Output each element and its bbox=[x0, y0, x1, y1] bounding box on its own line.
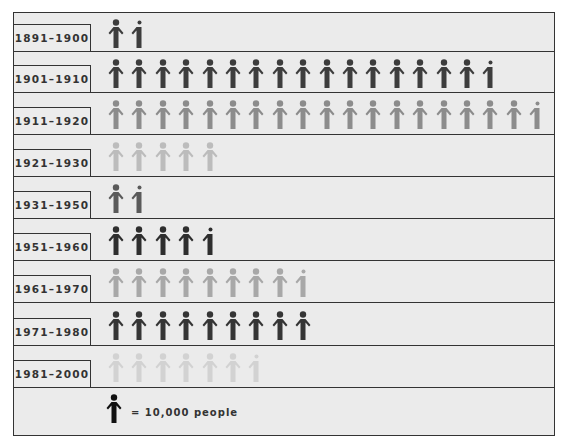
person-icon bbox=[202, 59, 218, 89]
person-icon bbox=[108, 268, 124, 298]
person-icon bbox=[131, 353, 147, 383]
half-person-icon bbox=[529, 100, 545, 130]
person-icon bbox=[178, 311, 194, 341]
person-icon bbox=[272, 268, 288, 298]
person-icon bbox=[108, 19, 124, 49]
person-icon bbox=[178, 268, 194, 298]
person-icon bbox=[389, 59, 405, 89]
pictogram-row: 1951–1960 bbox=[14, 219, 554, 261]
person-icon bbox=[225, 100, 241, 130]
person-icon bbox=[131, 226, 147, 256]
person-icon bbox=[225, 268, 241, 298]
person-icon bbox=[202, 142, 218, 172]
pictogram-row: 1911–1920 bbox=[14, 93, 554, 135]
pictogram-row: 1891–1900 bbox=[14, 13, 554, 52]
person-icon bbox=[412, 59, 428, 89]
half-person-icon bbox=[131, 184, 147, 214]
category-label: 1891–1900 bbox=[13, 24, 91, 52]
pictogram-row: 1901–1910 bbox=[14, 52, 554, 93]
half-person-icon bbox=[202, 226, 218, 256]
category-label: 1981–2000 bbox=[13, 360, 91, 388]
person-icon bbox=[389, 100, 405, 130]
person-icon bbox=[155, 353, 171, 383]
person-icon bbox=[108, 184, 124, 214]
legend-text: = 10,000 people bbox=[131, 407, 238, 418]
person-icon bbox=[225, 59, 241, 89]
person-icon bbox=[155, 311, 171, 341]
person-icon bbox=[178, 353, 194, 383]
category-label: 1951–1960 bbox=[13, 233, 91, 261]
person-icon bbox=[202, 311, 218, 341]
person-icon bbox=[131, 142, 147, 172]
person-icon bbox=[342, 100, 358, 130]
person-icon bbox=[295, 311, 311, 341]
person-icon bbox=[436, 59, 452, 89]
category-label: 1901–1910 bbox=[13, 65, 91, 93]
pictogram-row: 1971–1980 bbox=[14, 303, 554, 346]
person-icon bbox=[178, 100, 194, 130]
person-icon bbox=[365, 59, 381, 89]
pictogram-chart: 1891–19001901–19101911–19201921–19301931… bbox=[13, 12, 555, 436]
legend-person-icon bbox=[106, 394, 122, 424]
person-icon bbox=[178, 59, 194, 89]
person-icon bbox=[295, 100, 311, 130]
person-icon bbox=[436, 100, 452, 130]
person-icon bbox=[248, 100, 264, 130]
half-person-icon bbox=[248, 353, 264, 383]
person-icon bbox=[108, 226, 124, 256]
person-icon bbox=[131, 268, 147, 298]
category-label: 1971–1980 bbox=[13, 318, 91, 346]
person-icon bbox=[178, 142, 194, 172]
pictogram-row: 1961–1970 bbox=[14, 261, 554, 303]
person-icon bbox=[295, 59, 311, 89]
person-icon bbox=[108, 311, 124, 341]
pictogram-row: 1981–2000 bbox=[14, 346, 554, 388]
half-person-icon bbox=[131, 19, 147, 49]
category-label: 1911–1920 bbox=[13, 107, 91, 135]
person-icon bbox=[272, 311, 288, 341]
pictogram-row: 1921–1930 bbox=[14, 135, 554, 177]
person-icon bbox=[319, 100, 335, 130]
category-label: 1961–1970 bbox=[13, 275, 91, 303]
person-icon bbox=[108, 59, 124, 89]
person-icon bbox=[248, 59, 264, 89]
person-icon bbox=[108, 353, 124, 383]
person-icon bbox=[248, 311, 264, 341]
person-icon bbox=[155, 268, 171, 298]
person-icon bbox=[108, 142, 124, 172]
person-icon bbox=[459, 100, 475, 130]
category-label: 1921–1930 bbox=[13, 149, 91, 177]
person-icon bbox=[178, 226, 194, 256]
person-icon bbox=[342, 59, 358, 89]
person-icon bbox=[131, 311, 147, 341]
category-label: 1931–1950 bbox=[13, 191, 91, 219]
person-icon bbox=[482, 100, 498, 130]
person-icon bbox=[506, 100, 522, 130]
person-icon bbox=[272, 100, 288, 130]
person-icon bbox=[155, 226, 171, 256]
person-icon bbox=[155, 142, 171, 172]
person-icon bbox=[225, 311, 241, 341]
person-icon bbox=[202, 268, 218, 298]
person-icon bbox=[131, 59, 147, 89]
person-icon bbox=[319, 59, 335, 89]
person-icon bbox=[155, 100, 171, 130]
person-icon bbox=[225, 353, 241, 383]
person-icon bbox=[272, 59, 288, 89]
person-icon bbox=[248, 268, 264, 298]
legend: = 10,000 people bbox=[14, 387, 554, 435]
person-icon bbox=[459, 59, 475, 89]
person-icon bbox=[155, 59, 171, 89]
person-icon bbox=[108, 100, 124, 130]
person-icon bbox=[365, 100, 381, 130]
person-icon bbox=[202, 100, 218, 130]
person-icon bbox=[131, 100, 147, 130]
person-icon bbox=[202, 353, 218, 383]
half-person-icon bbox=[482, 59, 498, 89]
pictogram-row: 1931–1950 bbox=[14, 177, 554, 219]
half-person-icon bbox=[295, 268, 311, 298]
person-icon bbox=[412, 100, 428, 130]
